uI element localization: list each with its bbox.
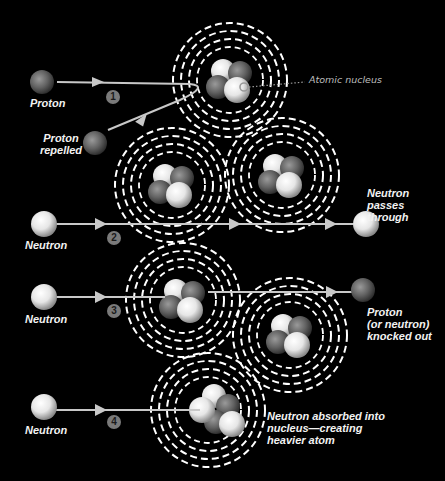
- label-proton-repelled: Proton repelled: [36, 132, 86, 156]
- step-badge-2: 2: [107, 231, 121, 245]
- atom-3a: [126, 243, 240, 357]
- step-badge-3: 3: [107, 304, 121, 318]
- label-neutron-2: Neutron: [25, 239, 67, 251]
- diagram-canvas: 1 2 3 4 Proton Proton repelled Atomic nu…: [0, 0, 445, 481]
- label-neutron-passes-through: Neutron passes through: [367, 187, 445, 223]
- proton-repelled: [83, 131, 107, 155]
- neutron-incoming-2: [31, 211, 57, 237]
- label-neutron-4: Neutron: [25, 424, 67, 436]
- label-atomic-nucleus: Atomic nucleus: [309, 74, 382, 85]
- label-neutron-absorbed: Neutron absorbed into nucleus—creating h…: [267, 410, 385, 446]
- path-1: [57, 82, 198, 130]
- label-neutron-3: Neutron: [25, 313, 67, 325]
- atom-2b: [225, 118, 339, 232]
- label-proton-incoming: Proton: [30, 97, 65, 109]
- neutron-incoming-3: [31, 284, 57, 310]
- label-proton-knocked-out: Proton (or neutron) knocked out: [367, 306, 432, 342]
- step-badge-4: 4: [107, 415, 121, 429]
- step-badge-1: 1: [106, 90, 120, 104]
- neutron-incoming-4: [31, 394, 57, 420]
- proton-knocked-out: [351, 278, 375, 302]
- proton-incoming-1: [30, 70, 54, 94]
